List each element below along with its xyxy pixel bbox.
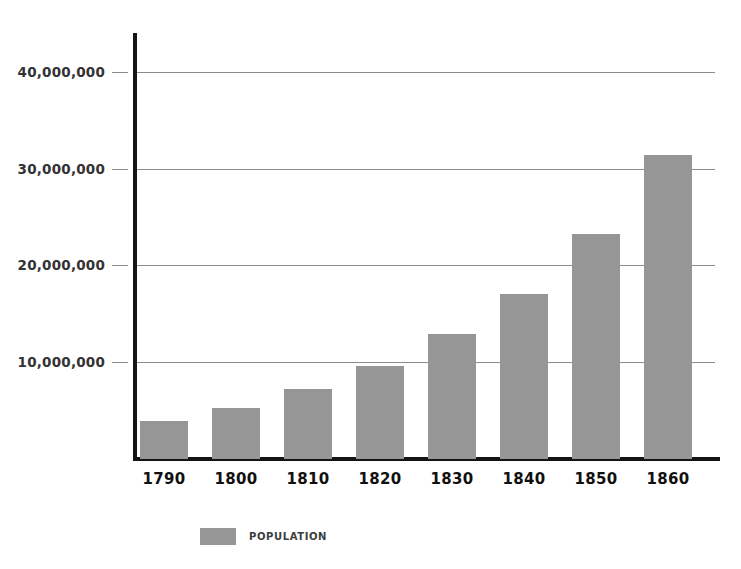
bar-1850 [572,234,620,459]
population-bar-chart: 10,000,00020,000,00030,000,00040,000,000… [0,0,741,569]
y-axis-tick-label: 10,000,000 [18,354,105,370]
bars-layer [135,33,715,459]
x-axis-tick-label: 1830 [412,470,492,488]
y-axis-labels: 10,000,00020,000,00030,000,00040,000,000 [0,0,105,461]
bar-1830 [428,334,476,459]
x-axis-tick-label: 1850 [556,470,636,488]
legend-swatch-icon [200,528,236,545]
y-axis-tick-mark [112,72,128,73]
bar-1860 [644,155,692,459]
x-axis-tick-label: 1860 [628,470,708,488]
y-axis-tick-mark [112,362,128,363]
bar-1790 [140,421,188,459]
x-axis-tick-label: 1840 [484,470,564,488]
x-axis-labels: 17901800181018201830184018501860 [135,470,715,496]
bar-1810 [284,389,332,459]
bar-1820 [356,366,404,459]
x-axis-tick-label: 1820 [340,470,420,488]
x-axis-tick-label: 1810 [268,470,348,488]
y-axis-tick-label: 40,000,000 [18,64,105,80]
y-axis-tick-mark [112,265,128,266]
x-axis-tick-label: 1790 [124,470,204,488]
x-axis-tick-label: 1800 [196,470,276,488]
bar-1800 [212,408,260,459]
y-axis-tick-label: 30,000,000 [18,161,105,177]
y-axis-tick-mark [112,169,128,170]
legend-label: POPULATION [249,531,327,542]
chart-legend: POPULATION [200,528,327,545]
y-axis-tick-label: 20,000,000 [18,257,105,273]
bar-1840 [500,294,548,459]
